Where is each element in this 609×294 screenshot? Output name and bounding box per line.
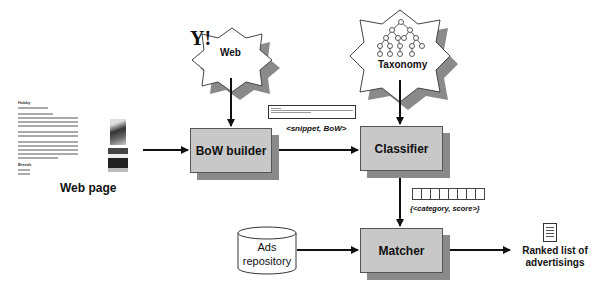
matcher-label: Matcher [378,244,424,258]
thumbnail-section: Breeds [18,162,110,167]
category-score-label: {<category, score>} [410,204,480,213]
ranked-list-document-icon [543,223,557,242]
yahoo-logo-icon: Y! [190,27,211,50]
classifier-box: Classifier [360,126,443,171]
bow-builder-box: BoW builder [190,128,272,173]
snippet-bow-label: <snippet, BoW> [286,124,346,133]
thumbnail-title: Hobby [18,100,110,105]
category-score-vector [412,188,485,200]
classifier-label: Classifier [374,142,428,156]
photo-dog-2 [108,148,128,172]
matcher-box: Matcher [360,228,443,273]
web-page-thumbnail: Hobby Breeds [18,100,110,182]
snippet-document [268,105,356,119]
ranked-list-label: Ranked list of advertisings [514,245,596,269]
web-page-label: Web page [60,181,116,195]
photo-dog-1 [110,119,126,145]
ads-repository-label: Ads repository [238,240,296,268]
web-label: Web [220,47,241,58]
bow-builder-label: BoW builder [196,144,267,158]
taxonomy-label: Taxonomy [378,59,427,70]
